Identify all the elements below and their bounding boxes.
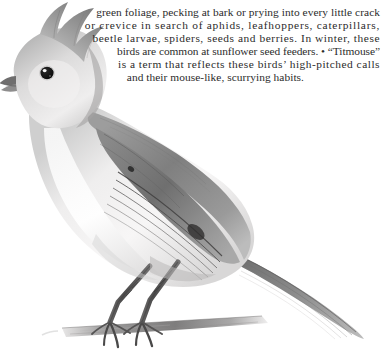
body-text-line-4: birds are common at sunflower seed feede… xyxy=(117,45,380,57)
body-text-line-6: and their mouse-like, scurrying habits. xyxy=(127,71,304,83)
body-text-line-1: green foliage, pecking at bark or prying… xyxy=(96,6,380,18)
body-text-block: green foliage, pecking at bark or prying… xyxy=(0,0,386,92)
body-text-line-2: or crevice in search of aphids, leafhopp… xyxy=(85,19,380,31)
body-text-line-3: beetle larvae, spiders, seeds and berrie… xyxy=(92,32,380,44)
clipped-top-line xyxy=(4,0,380,3)
branch xyxy=(42,316,268,337)
field-guide-page: green foliage, pecking at bark or prying… xyxy=(0,0,386,351)
tail xyxy=(239,257,364,339)
body-text-line-5: is a term that reflects these birds’ hig… xyxy=(118,58,380,70)
